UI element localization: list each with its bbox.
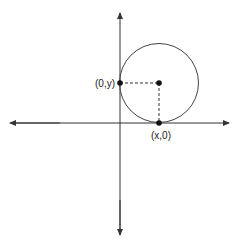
label-y-intercept: (0,y) bbox=[95, 78, 115, 89]
point-y-intercept bbox=[117, 80, 123, 86]
point-x-intercept bbox=[156, 120, 162, 126]
label-x-intercept: (x,0) bbox=[151, 130, 171, 141]
point-center bbox=[156, 80, 162, 86]
diagram: (0,y) (x,0) bbox=[0, 0, 237, 244]
